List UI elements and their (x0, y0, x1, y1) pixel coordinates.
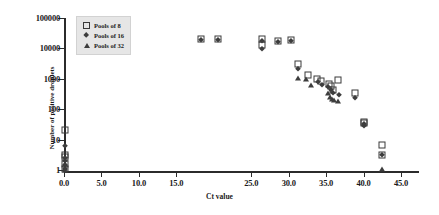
data-point (336, 92, 342, 98)
data-point (335, 98, 341, 103)
data-point (295, 76, 301, 81)
data-point (379, 167, 385, 172)
x-axis-title: Ct value (0, 192, 439, 201)
legend-label: Pools of 16 (94, 32, 124, 39)
data-point (295, 66, 301, 72)
chart-legend: Pools of 8 Pools of 16 Pools of 32 (76, 16, 131, 55)
data-point (308, 83, 314, 88)
data-point (62, 143, 68, 149)
open-square-icon (81, 22, 92, 29)
legend-label: Pools of 32 (94, 42, 124, 49)
x-tick-label: 10.0 (132, 178, 146, 188)
scatter-chart-figure: Number of positive droplets 110100100010… (0, 0, 439, 215)
legend-item-pools-of-32: Pools of 32 (81, 41, 124, 50)
y-tick-label: 100 (48, 104, 60, 114)
legend-label: Pools of 8 (94, 22, 121, 29)
x-tick-label: 40.0 (357, 178, 371, 188)
y-tick-label: 10 (52, 135, 60, 145)
legend-item-pools-of-16: Pools of 16 (81, 31, 124, 40)
y-tick-label: 1000 (44, 74, 60, 84)
filled-diamond-icon (81, 33, 92, 37)
y-tick-label: 100000 (36, 13, 60, 23)
data-point (303, 77, 309, 82)
data-point (62, 168, 68, 173)
y-tick-label: 1 (56, 165, 60, 175)
data-point (378, 142, 385, 149)
x-axis-line (64, 171, 419, 173)
x-tick-label: 5.0 (96, 178, 106, 188)
x-tick-label: 35.0 (319, 178, 333, 188)
x-tick-label: 0.0 (59, 178, 69, 188)
x-tick-label: 45.0 (394, 178, 408, 188)
data-point (259, 46, 265, 52)
data-point (62, 127, 69, 134)
legend-item-pools-of-8: Pools of 8 (81, 21, 124, 30)
x-tick-label: 30.0 (282, 178, 296, 188)
data-point (335, 77, 342, 84)
x-tick-label: 15.0 (169, 178, 183, 188)
y-tick-label: 10000 (40, 43, 60, 53)
x-tick-label: 25.0 (244, 178, 258, 188)
filled-triangle-icon (81, 43, 92, 48)
